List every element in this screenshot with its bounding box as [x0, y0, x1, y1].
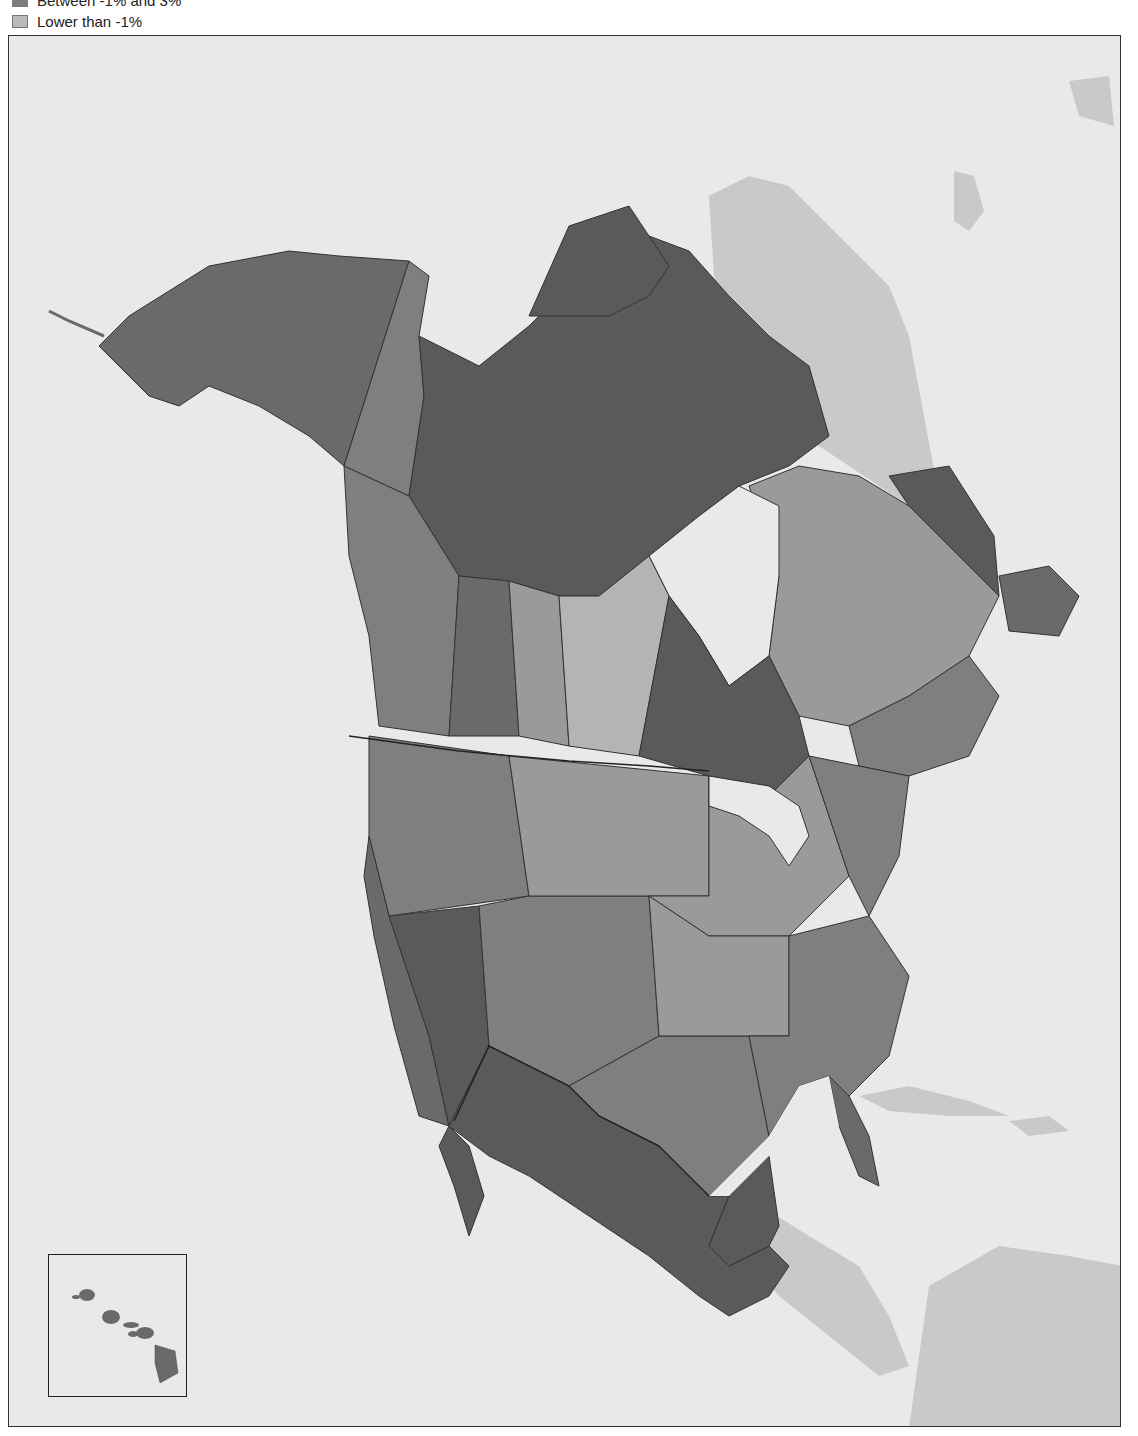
alberta — [449, 576, 519, 736]
hawaii-map — [49, 1255, 185, 1395]
north-america-map — [9, 36, 1121, 1427]
hawaii-inset — [48, 1254, 187, 1397]
us-northwest — [369, 736, 529, 916]
legend-label-lower: Lower than -1% — [37, 13, 142, 30]
caribbean-cuba — [859, 1086, 1009, 1116]
us-northern-plains — [509, 756, 709, 896]
iceland — [954, 171, 984, 231]
map-legend: Between -1% and 3% Lower than -1% — [12, 0, 181, 32]
newfoundland — [999, 566, 1079, 636]
svalbard-area — [1069, 76, 1114, 126]
legend-swatch-lower — [12, 15, 28, 28]
aleutians — [49, 311, 104, 336]
legend-swatch-between — [12, 0, 28, 7]
map-frame — [8, 35, 1121, 1427]
south-america — [909, 1246, 1121, 1427]
legend-item-lower: Lower than -1% — [12, 11, 181, 32]
legend-item-between: Between -1% and 3% — [12, 0, 181, 11]
caribbean-hispaniola — [1009, 1116, 1069, 1136]
legend-label-between: Between -1% and 3% — [37, 0, 181, 9]
us-florida — [829, 1076, 879, 1186]
